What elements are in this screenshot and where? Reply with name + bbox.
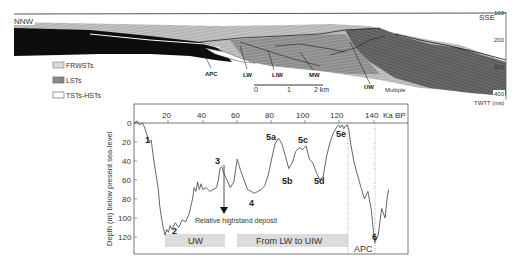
direction-nnw: NNW xyxy=(14,17,34,26)
label-multiple: Multiple xyxy=(385,87,406,93)
legend-label-frwsts: FRWSTs xyxy=(66,62,94,69)
svg-text:80: 80 xyxy=(122,195,131,204)
svg-text:40: 40 xyxy=(122,157,131,166)
svg-text:3: 3 xyxy=(215,156,220,166)
svg-text:60: 60 xyxy=(231,111,240,120)
svg-text:100: 100 xyxy=(118,214,132,223)
svg-text:20: 20 xyxy=(122,138,131,147)
direction-sse: SSE xyxy=(479,13,495,22)
y-axis-title: Depth (m) below present sea-level xyxy=(105,131,114,246)
svg-text:100: 100 xyxy=(296,111,310,120)
twtt-label: TWTT (ms) xyxy=(474,100,504,106)
svg-text:2 km: 2 km xyxy=(314,86,329,93)
highstand-annotation: Relative highstand deposit xyxy=(195,217,277,225)
label-mw: MW xyxy=(309,72,320,78)
label-apc: APC xyxy=(205,71,218,77)
svg-text:5e: 5e xyxy=(336,129,346,139)
seismic-profile: NNW SSE 100 200 300 400 TWTT (ms) APC LW… xyxy=(13,10,506,106)
svg-text:80: 80 xyxy=(265,111,274,120)
legend-label-tsts-hsts: TSTs-HSTs xyxy=(66,92,102,99)
svg-text:5d: 5d xyxy=(314,176,325,186)
svg-text:120: 120 xyxy=(118,233,132,242)
svg-text:5b: 5b xyxy=(282,176,293,186)
svg-text:5a: 5a xyxy=(266,132,277,142)
svg-text:20: 20 xyxy=(162,111,171,120)
figure-canvas: NNW SSE 100 200 300 400 TWTT (ms) APC LW… xyxy=(0,0,519,264)
legend-swatch-frwsts xyxy=(53,62,64,68)
x-unit: Ka BP xyxy=(383,111,406,120)
legend-swatch-lsts xyxy=(53,77,64,83)
arrow-head-icon xyxy=(220,207,228,214)
svg-text:2: 2 xyxy=(172,226,177,236)
svg-text:400: 400 xyxy=(494,91,505,97)
svg-text:0: 0 xyxy=(127,119,132,128)
svg-text:140: 140 xyxy=(365,111,379,120)
band-label-lw-uiw: From LW to UIW xyxy=(256,236,323,246)
label-uw: UW xyxy=(364,84,374,90)
svg-text:5c: 5c xyxy=(298,135,308,145)
scale-bar: 0 1 2 km xyxy=(254,85,329,93)
svg-text:6: 6 xyxy=(372,232,377,242)
legend-label-lsts: LSTs xyxy=(66,77,82,84)
x-ticks: 20 40 60 80 100 120 140 Ka BP xyxy=(162,111,406,123)
svg-text:0: 0 xyxy=(254,86,258,93)
svg-text:120: 120 xyxy=(330,111,344,120)
svg-text:100: 100 xyxy=(494,10,505,16)
legend-swatch-tsts-hsts xyxy=(53,92,64,98)
svg-text:60: 60 xyxy=(122,176,131,185)
band-label-uw: UW xyxy=(188,236,203,246)
svg-text:4: 4 xyxy=(249,198,254,208)
svg-text:1: 1 xyxy=(287,86,291,93)
svg-text:300: 300 xyxy=(494,64,505,70)
sea-level-curve xyxy=(134,121,389,243)
legend: FRWSTs LSTs TSTs-HSTs xyxy=(53,62,102,99)
svg-text:1: 1 xyxy=(145,135,150,145)
label-lw: LW xyxy=(243,72,252,78)
sea-level-chart: UW From LW to UIW APC 20 40 60 80 100 12… xyxy=(105,104,408,254)
band-label-apc: APC xyxy=(354,244,373,254)
svg-text:200: 200 xyxy=(494,37,505,43)
label-liw: LIW xyxy=(272,72,283,78)
svg-text:40: 40 xyxy=(197,111,206,120)
